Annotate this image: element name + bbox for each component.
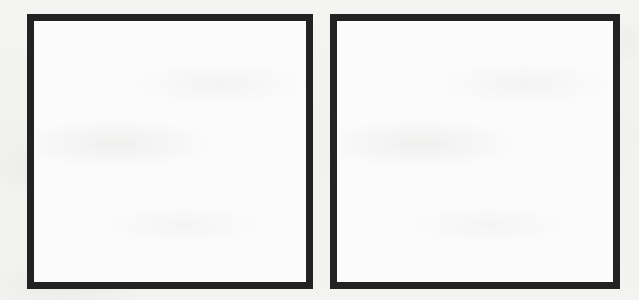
- blank-frame-left: [27, 14, 313, 289]
- blank-frame-left-content: [34, 21, 306, 282]
- blank-frame-right: [330, 14, 620, 289]
- blank-frame-right-content: [337, 21, 613, 282]
- scanned-page: [0, 0, 639, 300]
